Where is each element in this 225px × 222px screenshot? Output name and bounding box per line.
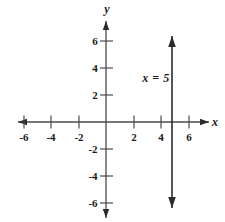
y-tick-label--6: -6 [88,198,97,209]
graphed-line-arrow-down [168,197,176,208]
x-axis [18,116,209,129]
equation-label: x = 5 [142,72,169,84]
graphed-line-arrow-up [168,36,176,47]
x-tick-label-2: 2 [131,132,137,143]
y-tick-label-6: 6 [92,36,98,47]
y-tick-label-4: 4 [92,63,98,74]
x-tick-label--6: -6 [19,132,28,143]
x-axis-arrow-right [200,119,209,125]
y-tick-label--2: -2 [88,144,97,155]
y-axis-label: y [104,3,109,15]
coordinate-graph-figure: -6 -4 -2 2 4 6 6 4 2 -2 -4 -6 y x x = 5 [0,0,225,222]
y-axis-arrow-down [103,209,109,218]
graph-canvas [0,0,225,222]
x-axis-label: x [212,116,218,128]
x-tick-label--2: -2 [74,132,83,143]
y-axis-arrow-up [103,21,109,30]
x-tick-label-6: 6 [186,132,192,143]
x-tick-label-4: 4 [158,132,164,143]
y-axis [100,21,113,218]
y-tick-label--4: -4 [88,171,97,182]
x-axis-arrow-left [18,119,27,125]
x-tick-label--4: -4 [46,132,55,143]
y-tick-label-2: 2 [92,90,98,101]
